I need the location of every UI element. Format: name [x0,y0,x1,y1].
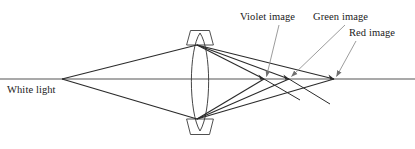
red-ray-lower [197,79,334,119]
lens-left-surface [191,33,200,131]
label-green-image: Green image [313,11,368,22]
green-leader-line [292,25,346,77]
lens-bottom-cap [187,119,214,135]
diagram-canvas [0,0,415,149]
label-leader-lines [267,25,357,77]
incident-rays [62,45,197,119]
incident-ray-lower [62,79,197,119]
violet-ray-lower [197,79,264,119]
red-leader-line [337,41,357,77]
green-ray-beyond [289,79,330,104]
violet-ray-upper [197,45,264,79]
violet-leader-line [267,25,280,77]
green-ray-upper [197,45,289,79]
lens-top-cap [187,31,214,46]
label-white-light: White light [7,84,56,95]
chromatic-aberration-diagram: White light Violet image Green image Red… [0,0,415,149]
red-ray-upper [197,45,334,79]
refracted-rays-lower [197,79,334,119]
incident-ray-upper [62,45,197,79]
refracted-rays-upper [197,45,334,79]
label-violet-image: Violet image [240,11,295,22]
label-red-image: Red image [349,27,395,38]
